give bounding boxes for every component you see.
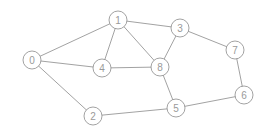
edges-layer (32, 20, 244, 116)
nodes-layer: 012345678 (23, 11, 253, 125)
node-label: 4 (99, 63, 105, 74)
node-2: 2 (84, 107, 102, 125)
edge-0-2 (32, 60, 93, 116)
node-label: 3 (177, 23, 183, 34)
edge-2-5 (93, 108, 176, 116)
node-5: 5 (167, 99, 185, 117)
node-0: 0 (23, 51, 41, 69)
edge-0-1 (32, 20, 118, 60)
node-8: 8 (151, 58, 169, 76)
node-label: 8 (157, 62, 163, 73)
edge-0-4 (32, 60, 102, 68)
node-label: 6 (241, 90, 247, 101)
node-4: 4 (93, 59, 111, 77)
edge-5-6 (176, 95, 244, 108)
node-6: 6 (235, 86, 253, 104)
node-label: 2 (90, 111, 96, 122)
graph-diagram: 012345678 (0, 0, 270, 132)
node-7: 7 (226, 41, 244, 59)
edge-1-8 (118, 20, 160, 67)
node-1: 1 (109, 11, 127, 29)
node-3: 3 (171, 19, 189, 37)
node-label: 7 (232, 45, 238, 56)
node-label: 5 (173, 103, 179, 114)
node-label: 1 (115, 15, 121, 26)
node-label: 0 (29, 55, 35, 66)
